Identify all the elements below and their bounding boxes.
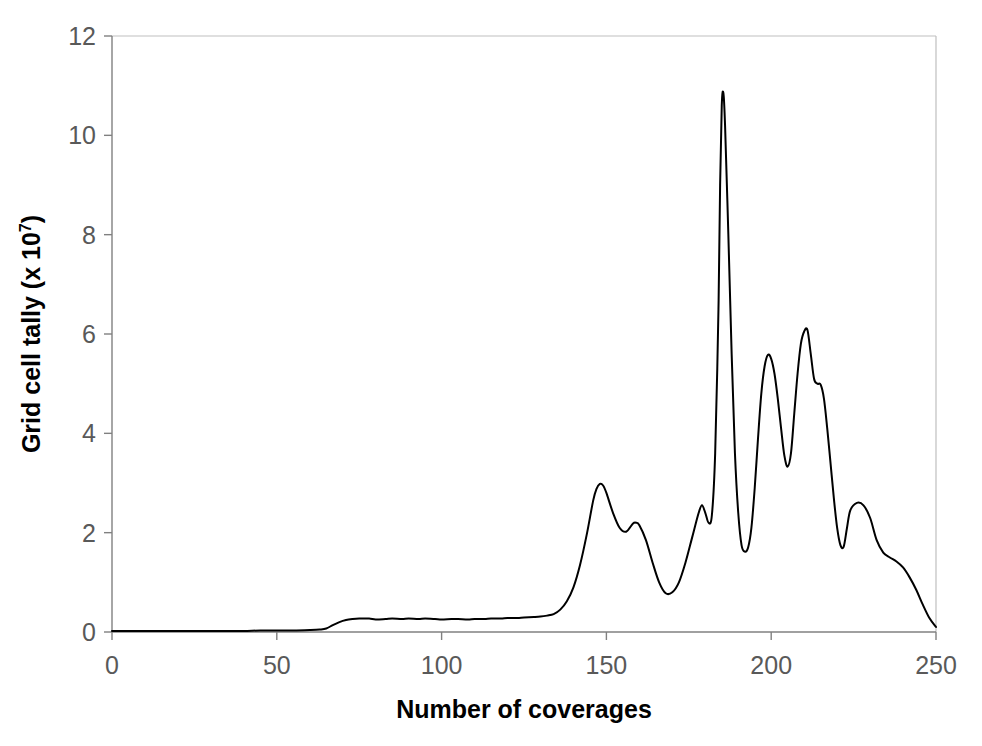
x-tick-label: 100 xyxy=(421,651,463,679)
x-axis-title: Number of coverages xyxy=(396,695,652,723)
x-axis-title-text: Number of coverages xyxy=(396,695,652,723)
y-tick-label: 10 xyxy=(68,121,96,149)
y-axis-title-superscript: 7 xyxy=(17,223,34,232)
chart-background xyxy=(0,0,982,746)
y-axis-title: Grid cell tally (x 107) xyxy=(17,215,45,453)
x-tick-label: 0 xyxy=(105,651,119,679)
x-tick-label: 150 xyxy=(586,651,628,679)
y-tick-label: 8 xyxy=(82,221,96,249)
y-tick-label: 2 xyxy=(82,519,96,547)
y-tick-label: 4 xyxy=(82,419,96,447)
chart-figure: 024681012 050100150200250 Number of cove… xyxy=(0,0,982,746)
y-axis-title-text: Grid cell tally (x 107) xyxy=(17,215,45,453)
x-tick-label: 50 xyxy=(263,651,291,679)
y-tick-label: 12 xyxy=(68,22,96,50)
line-chart: 024681012 050100150200250 Number of cove… xyxy=(0,0,982,746)
x-tick-label: 250 xyxy=(915,651,957,679)
y-tick-label: 6 xyxy=(82,320,96,348)
y-axis-title-suffix: ) xyxy=(17,215,45,223)
y-tick-label: 0 xyxy=(82,618,96,646)
x-tick-label: 200 xyxy=(750,651,792,679)
y-axis-title-main: Grid cell tally (x 10 xyxy=(17,232,45,453)
